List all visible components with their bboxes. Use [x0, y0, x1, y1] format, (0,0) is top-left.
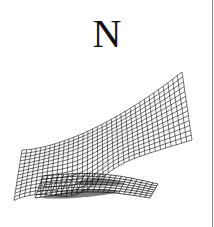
wireframe-surface — [0, 0, 212, 227]
right-border — [212, 0, 213, 227]
figure-panel: N — [0, 0, 212, 227]
